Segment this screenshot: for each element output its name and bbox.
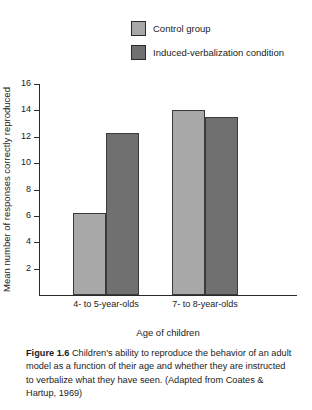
y-tick-label: 12 bbox=[21, 131, 31, 142]
y-tick: 16 bbox=[34, 84, 39, 85]
bar bbox=[205, 117, 238, 295]
legend-item-induced: Induced-verbalization condition bbox=[131, 42, 311, 63]
x-group-label: 7- to 8-year-olds bbox=[158, 299, 252, 309]
y-axis-line bbox=[39, 84, 40, 295]
y-tick: 10 bbox=[34, 163, 39, 164]
legend-item-control: Control group bbox=[131, 18, 311, 39]
bar bbox=[106, 133, 139, 295]
legend-label-control: Control group bbox=[153, 24, 211, 34]
x-axis-line bbox=[39, 295, 297, 296]
y-axis-title: Mean number of responses correctly repro… bbox=[0, 84, 14, 295]
y-tick: 8 bbox=[34, 190, 39, 191]
y-tick-label: 4 bbox=[26, 236, 31, 247]
chart-legend: Control group Induced-verbalization cond… bbox=[131, 18, 311, 66]
figure-container: Control group Induced-verbalization cond… bbox=[0, 0, 312, 410]
y-tick-label: 14 bbox=[21, 104, 31, 115]
x-group-label: 4- to 5-year-olds bbox=[59, 299, 153, 309]
y-tick-label: 16 bbox=[21, 78, 31, 89]
figure-number: Figure 1.6 bbox=[26, 348, 69, 358]
y-tick-label: 6 bbox=[26, 210, 31, 221]
y-tick: 2 bbox=[34, 269, 39, 270]
bar bbox=[73, 213, 106, 295]
legend-label-induced: Induced-verbalization condition bbox=[153, 48, 284, 58]
y-tick: 4 bbox=[34, 242, 39, 243]
y-tick: 6 bbox=[34, 216, 39, 217]
y-tick-label: 10 bbox=[21, 157, 31, 168]
bar bbox=[172, 110, 205, 295]
y-tick-label: 8 bbox=[26, 184, 31, 195]
legend-swatch-induced-icon bbox=[131, 45, 146, 60]
figure-caption: Figure 1.6 Children's ability to reprodu… bbox=[26, 347, 294, 400]
x-axis-title: Age of children bbox=[39, 327, 297, 338]
y-tick: 12 bbox=[34, 137, 39, 138]
y-tick: 14 bbox=[34, 110, 39, 111]
legend-swatch-control-icon bbox=[131, 21, 146, 36]
plot-area: 246810121416 4- to 5-year-olds7- to 8-ye… bbox=[39, 84, 297, 295]
y-tick-label: 2 bbox=[26, 263, 31, 274]
